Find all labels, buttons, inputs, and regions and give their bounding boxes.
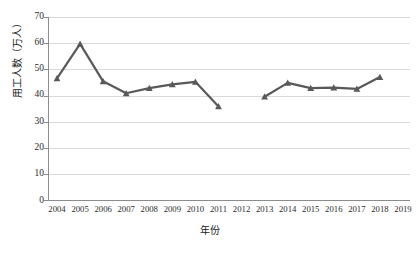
x-tick-label-2004: 2004 (48, 205, 65, 214)
x-axis-title: 年份 (0, 222, 420, 237)
x-tick-label-2018: 2018 (371, 205, 388, 214)
gridline-40 (48, 96, 410, 97)
gridline-30 (48, 122, 410, 123)
y-tick-label-10: 10 (10, 169, 44, 179)
x-tick-label-2017: 2017 (348, 205, 365, 214)
plot-area (48, 17, 410, 200)
x-tick-label-2016: 2016 (325, 205, 342, 214)
y-tick-label-20: 20 (10, 143, 44, 153)
x-tick-label-2006: 2006 (94, 205, 111, 214)
x-tick-label-2013: 2013 (256, 205, 273, 214)
gridline-50 (48, 69, 410, 70)
y-axis-title: 用工人数（万人） (9, 0, 24, 123)
x-tick-label-2007: 2007 (118, 205, 135, 214)
gridline-10 (48, 174, 410, 175)
x-tick-label-2019: 2019 (394, 205, 411, 214)
x-tick-label-2015: 2015 (302, 205, 319, 214)
x-tick-label-2005: 2005 (71, 205, 88, 214)
line-chart: 70 60 50 40 30 20 10 0 20042005200620072… (0, 0, 420, 254)
gridline-70 (48, 17, 410, 18)
x-tick-label-2010: 2010 (187, 205, 204, 214)
x-tick-label-2012: 2012 (233, 205, 250, 214)
y-axis-line (48, 17, 49, 201)
x-tick-label-2009: 2009 (164, 205, 181, 214)
gridline-60 (48, 43, 410, 44)
x-axis-line (48, 200, 410, 201)
gridline-20 (48, 148, 410, 149)
x-tick-label-2011: 2011 (210, 205, 227, 214)
x-tick-label-2008: 2008 (141, 205, 158, 214)
x-tick-label-2014: 2014 (279, 205, 296, 214)
y-tick-label-0: 0 (10, 196, 44, 206)
